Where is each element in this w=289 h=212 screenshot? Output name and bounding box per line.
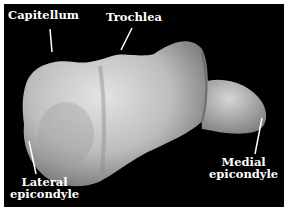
label-lateral-epicondyle: Lateral epicondyle xyxy=(10,176,79,200)
capitellum-pointer xyxy=(50,29,52,52)
lateral-texture xyxy=(38,102,94,166)
label-capitellum: Capitellum xyxy=(8,9,79,21)
image-frame: Capitellum Trochlea Lateral epicondyle M… xyxy=(4,4,284,207)
trochlea-pointer xyxy=(121,28,132,50)
label-medial-epicondyle: Medial epicondyle xyxy=(209,156,278,180)
label-trochlea: Trochlea xyxy=(106,11,162,23)
medial-epicondyle-shape xyxy=(199,80,266,134)
label-medial-line2: epicondyle xyxy=(209,168,278,180)
label-lateral-line2: epicondyle xyxy=(10,188,79,200)
